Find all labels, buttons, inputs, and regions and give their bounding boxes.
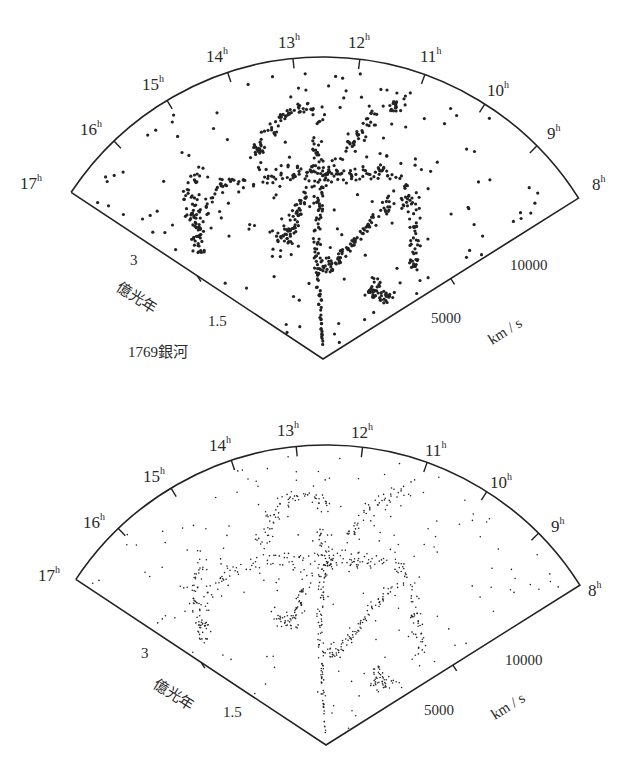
galaxy-point	[372, 296, 375, 299]
galaxy-point	[242, 186, 245, 189]
galaxy-point	[423, 637, 425, 639]
galaxy-point	[450, 212, 453, 215]
galaxy-point	[369, 121, 372, 124]
galaxy-point	[477, 180, 480, 183]
galaxy-point	[193, 178, 196, 181]
galaxy-point	[212, 596, 214, 598]
galaxy-point	[221, 581, 223, 583]
galaxy-point	[273, 618, 275, 620]
galaxy-point	[276, 239, 279, 242]
hour-tick	[421, 75, 424, 84]
galaxy-point	[510, 589, 512, 591]
distance-unit-label: 億光年	[150, 676, 197, 713]
hour-label-12: 12h	[351, 421, 373, 442]
hour-tick	[114, 141, 121, 148]
galaxy-point	[287, 504, 289, 506]
galaxy-point	[218, 582, 220, 584]
distance-tick-3: 3	[141, 645, 149, 661]
galaxy-point	[206, 559, 208, 561]
galaxy-point	[236, 492, 238, 494]
galaxy-point	[393, 534, 395, 536]
galaxy-point	[335, 648, 337, 650]
galaxy-point	[397, 572, 399, 574]
galaxy-point	[318, 539, 320, 541]
galaxy-point	[269, 520, 271, 522]
galaxy-point	[315, 201, 318, 204]
galaxy-point	[414, 232, 417, 235]
galaxy-point	[292, 498, 294, 500]
galaxy-point	[353, 525, 355, 527]
hour-tick	[361, 447, 362, 457]
galaxy-point	[358, 558, 360, 560]
galaxy-point	[379, 603, 381, 605]
galaxy-point	[342, 649, 344, 651]
galaxy-point	[371, 276, 374, 279]
galaxy-point	[320, 589, 322, 591]
galaxy-point	[299, 591, 301, 593]
velocity-tick-10000: 10000	[505, 652, 543, 668]
galaxy-point	[383, 298, 386, 301]
galaxy-point	[345, 181, 348, 184]
galaxy-point	[182, 527, 184, 529]
galaxy-point	[393, 680, 395, 682]
galaxy-point	[321, 511, 323, 513]
galaxy-point	[236, 182, 239, 185]
galaxy-point	[368, 504, 370, 506]
galaxy-point	[326, 501, 328, 503]
hour-label-9: 9h	[551, 515, 565, 536]
galaxy-point	[203, 596, 205, 598]
galaxy-point	[339, 157, 342, 160]
galaxy-point	[325, 558, 327, 560]
radial-tick	[451, 279, 455, 285]
galaxy-point	[279, 255, 282, 258]
velocity-unit-label: km / s	[485, 314, 525, 347]
galaxy-point	[313, 229, 316, 232]
galaxy-point	[320, 597, 322, 599]
galaxy-point	[312, 241, 315, 244]
galaxy-point	[319, 625, 321, 627]
galaxy-point	[323, 713, 325, 715]
galaxy-point	[413, 622, 415, 624]
galaxy-point	[382, 206, 385, 209]
galaxy-point	[199, 233, 202, 236]
galaxy-point	[201, 624, 203, 626]
galaxy-point	[328, 550, 330, 552]
galaxy-point	[339, 458, 341, 460]
galaxy-point	[141, 217, 144, 220]
galaxy-point	[372, 311, 375, 314]
galaxy-point	[317, 608, 319, 610]
galaxy-point	[318, 238, 321, 241]
galaxy-point	[418, 196, 421, 199]
galaxy-point	[198, 210, 201, 213]
galaxy-point	[329, 477, 331, 479]
galaxy-point	[411, 659, 413, 661]
galaxy-point	[200, 240, 203, 243]
galaxy-point	[163, 231, 166, 234]
galaxy-point	[379, 677, 381, 679]
galaxy-point	[321, 343, 324, 346]
galaxy-point	[394, 552, 396, 554]
galaxy-point	[287, 615, 289, 617]
galaxy-point	[422, 638, 424, 640]
galaxy-point	[304, 177, 307, 180]
galaxy-point	[438, 477, 440, 479]
galaxy-point	[270, 515, 272, 517]
galaxy-point	[489, 518, 491, 520]
galaxy-point	[400, 207, 403, 210]
galaxy-point	[358, 623, 360, 625]
galaxy-point	[350, 564, 352, 566]
galaxy-point	[263, 176, 266, 179]
galaxy-point	[382, 672, 384, 674]
galaxy-point	[392, 202, 395, 205]
galaxy-point	[220, 563, 222, 565]
galaxy-point	[464, 500, 466, 502]
galaxy-point	[256, 539, 258, 541]
galaxy-point	[253, 224, 256, 227]
galaxy-point	[229, 569, 231, 571]
galaxy-point	[377, 291, 380, 294]
galaxy-point	[306, 575, 308, 577]
galaxy-point	[146, 134, 149, 137]
galaxy-point	[302, 110, 305, 113]
galaxy-point	[362, 122, 365, 125]
galaxy-point	[369, 565, 371, 567]
